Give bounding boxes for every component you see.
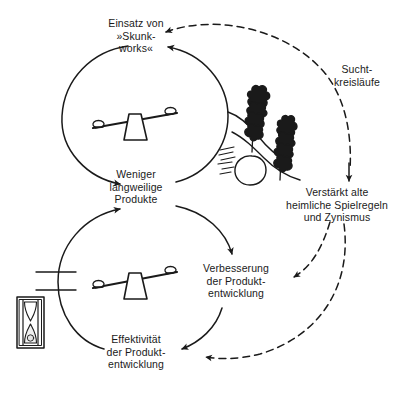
seesaw-balance-icon (93, 267, 177, 300)
node-label-verstaerkt-alte-spielregeln: Verstärkt alte heimliche Spielregeln und… (276, 186, 398, 224)
node-label-verbesserung-der-produktentwicklung: Verbesserung der Produkt- entwicklung (184, 262, 288, 300)
hourglass-delay-icon (17, 297, 44, 348)
upper-loop-left-arc (62, 46, 128, 184)
node-label-effektivitaet-der-produktentwicklung: Effektivität der Produkt- entwicklung (74, 333, 198, 371)
causal-loop-diagram: Einsatz von »Skunk- works« Weniger langw… (0, 0, 400, 393)
seesaw-balance-icon (93, 108, 177, 141)
lower-loop-right-arc-upper (176, 206, 232, 254)
plants-hillside-icon (218, 86, 300, 185)
lower-loop-left-arc (58, 209, 120, 349)
upper-loop-right-arc (168, 47, 228, 182)
node-label-suchtkreislaeufe: Sucht- kreisläufe (316, 63, 398, 88)
dashed-verstaerkt-to-verbesserung (294, 222, 330, 277)
node-label-skunkworks: Einsatz von »Skunk- works« (76, 17, 196, 55)
delay-hash-marks-icon (36, 272, 76, 290)
node-label-weniger-langweilige-produkte: Weniger langweilige Produkte (76, 168, 196, 206)
